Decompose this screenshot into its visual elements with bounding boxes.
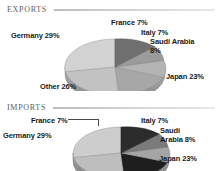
- exports-label-italy: Italy 7%: [141, 28, 168, 37]
- imports-france-leader-tick: [98, 119, 99, 126]
- imports-slice-germany: [73, 127, 121, 158]
- imports-label-france: France 7%: [31, 116, 68, 125]
- imports-label-germany: Germany 29%: [3, 131, 52, 140]
- exports-label-other: Other 26%: [40, 82, 76, 91]
- imports-label-italy: Italy 7%: [141, 116, 168, 125]
- exports-label-france: France 7%: [111, 18, 148, 27]
- imports-section: IMPORTS: [0, 98, 221, 171]
- exports-label-saudi-arabia: Saudi Arabia 8%: [150, 37, 200, 55]
- exports-slice-germany: [65, 39, 115, 72]
- exports-section: EXPORTS: [0, 0, 221, 98]
- imports-pie-svg: [70, 120, 172, 171]
- imports-pie-chart[interactable]: [70, 120, 172, 171]
- imports-header-rule: [53, 107, 215, 109]
- imports-title: IMPORTS: [7, 103, 46, 112]
- exports-header: EXPORTS: [7, 4, 215, 14]
- imports-label-saudi-arabia: Saudi Arabia 8%: [160, 126, 202, 144]
- imports-header: IMPORTS: [7, 102, 215, 112]
- imports-pie-slices: [73, 127, 170, 171]
- imports-label-japan: Japan 23%: [159, 154, 197, 163]
- imports-france-leader-line: [68, 119, 99, 120]
- exports-label-japan: Japan 23%: [166, 72, 204, 81]
- exports-label-germany: Germany 29%: [11, 31, 60, 40]
- exports-header-rule: [54, 9, 215, 11]
- exports-title: EXPORTS: [7, 5, 47, 14]
